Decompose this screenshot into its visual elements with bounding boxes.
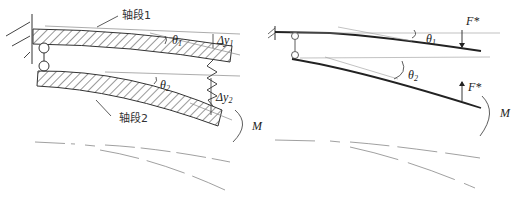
- shaft-segment-1-label: 轴段1: [122, 8, 151, 22]
- left-figure: 轴段1 轴段2 θ1 θ2 Δy1 Δy2 M: [6, 8, 263, 190]
- theta1-label: θ1: [172, 33, 182, 48]
- moment-label-right: M: [499, 106, 511, 120]
- shaft-deflection-diagram: 轴段1 轴段2 θ1 θ2 Δy1 Δy2 M: [0, 0, 514, 197]
- shaft-segment-2-label: 轴段2: [119, 111, 148, 125]
- delta-y2-label: Δy2: [215, 90, 232, 105]
- theta2-label-right: θ2: [408, 68, 418, 83]
- fixed-support-icon: [268, 26, 275, 40]
- force-bottom-label: F*: [467, 80, 481, 94]
- force-top-label: F*: [465, 14, 479, 28]
- theta1-label-right: θ1: [426, 32, 436, 47]
- beam-2: [292, 59, 481, 108]
- right-figure: F* F* θ1 θ2 M: [268, 14, 511, 188]
- moment-arrow-icon-right: [480, 96, 490, 136]
- moment-label: M: [251, 119, 263, 133]
- link-joint-icon: [39, 43, 49, 71]
- fixed-wall-icon: [6, 14, 32, 64]
- moment-arrow-icon: [233, 110, 243, 142]
- delta-y1-label: Δy1: [216, 33, 233, 48]
- theta2-label: θ2: [160, 78, 170, 93]
